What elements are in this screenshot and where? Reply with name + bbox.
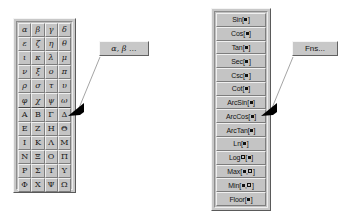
greek-cell-lower-4-2[interactable]: τ xyxy=(45,79,58,93)
fns-leader-line xyxy=(272,57,293,108)
function-button-arctan[interactable]: ArcTan[] xyxy=(216,123,266,137)
function-label: Sec xyxy=(231,58,243,65)
greek-cell-lower-2-2[interactable]: λ xyxy=(45,51,58,65)
greek-cell-upper-3-1[interactable]: Ξ xyxy=(31,150,44,164)
greek-cell-upper-1-0[interactable]: Ε xyxy=(18,122,31,136)
greek-cell-lower-4-3[interactable]: υ xyxy=(58,79,71,93)
greek-cell-lower-2-3[interactable]: μ xyxy=(58,51,71,65)
greek-cell-lower-1-3[interactable]: θ xyxy=(58,37,71,51)
bracket-close: ] xyxy=(249,58,251,65)
greek-cell-lower-1-1[interactable]: ζ xyxy=(31,37,44,51)
function-label: Ln xyxy=(233,140,241,147)
function-button-cos[interactable]: Cos[] xyxy=(216,27,266,41)
greek-cell-lower-3-2[interactable]: ο xyxy=(45,65,58,79)
callout-fns-label: Fns... xyxy=(292,41,338,56)
bracket-close: ] xyxy=(249,30,251,37)
greek-cell-lower-2-0[interactable]: ι xyxy=(18,51,31,65)
placeholder-square-open[interactable] xyxy=(247,183,251,187)
function-button-tan[interactable]: Tan[] xyxy=(216,41,266,55)
greek-cell-lower-5-0[interactable]: φ xyxy=(18,93,31,107)
bracket-close: ] xyxy=(254,127,256,134)
greek-cell-lower-4-0[interactable]: ρ xyxy=(18,79,31,93)
greek-letter-grid: αβγδεζηθικλμνξοπρστυφχψωΑΒΓΔΕΖΗΘΙΚΛΜΝΞΟΠ… xyxy=(18,23,71,188)
greek-cell-upper-0-2[interactable]: Γ xyxy=(45,108,58,122)
greek-cell-lower-5-3[interactable]: ω xyxy=(58,93,71,107)
greek-cell-lower-0-0[interactable]: α xyxy=(18,23,31,37)
function-label: ArcTan xyxy=(227,127,248,134)
greek-cell-upper-2-0[interactable]: Ι xyxy=(18,136,31,150)
bracket-close: ] xyxy=(251,196,253,203)
function-label: Cos xyxy=(231,30,243,37)
function-button-ln[interactable]: Ln[] xyxy=(216,137,266,151)
greek-cell-upper-1-3[interactable]: Θ xyxy=(58,122,71,136)
greek-cell-lower-3-3[interactable]: π xyxy=(58,65,71,79)
greek-cell-lower-5-1[interactable]: χ xyxy=(31,93,44,107)
function-button-log[interactable]: Log[] xyxy=(216,151,266,165)
bracket-close: ] xyxy=(254,113,256,120)
placeholder-square-open[interactable] xyxy=(248,169,252,173)
greek-cell-lower-3-0[interactable]: ν xyxy=(18,65,31,79)
function-label: Cot xyxy=(232,85,243,92)
bracket-close: ] xyxy=(252,182,254,189)
greek-cell-upper-0-3[interactable]: Δ xyxy=(58,108,71,122)
greek-cell-lower-3-1[interactable]: ξ xyxy=(31,65,44,79)
functions-palette[interactable]: Sin[]Cos[]Tan[]Sec[]Csc[]Cot[]ArcSin[]Ar… xyxy=(211,8,271,211)
greek-cell-lower-1-2[interactable]: η xyxy=(45,37,58,51)
greek-leader-line xyxy=(79,57,100,108)
bracket-close: ] xyxy=(248,85,250,92)
function-button-max[interactable]: Max[, ] xyxy=(216,165,266,179)
function-button-sin[interactable]: Sin[] xyxy=(216,13,266,27)
greek-cell-upper-2-2[interactable]: Λ xyxy=(45,136,58,150)
function-button-cot[interactable]: Cot[] xyxy=(216,82,266,96)
greek-cell-upper-0-1[interactable]: Β xyxy=(31,108,44,122)
function-label: ArcSin xyxy=(227,99,247,106)
greek-cell-lower-0-1[interactable]: β xyxy=(31,23,44,37)
greek-cell-upper-5-2[interactable]: Ψ xyxy=(45,178,58,192)
greek-cell-upper-5-0[interactable]: Φ xyxy=(18,178,31,192)
function-button-arccos[interactable]: ArcCos[] xyxy=(216,109,266,123)
greek-cell-upper-4-1[interactable]: Σ xyxy=(31,164,44,178)
bracket-close: ] xyxy=(249,44,251,51)
greek-cell-upper-0-0[interactable]: Α xyxy=(18,108,31,122)
greek-cell-upper-4-3[interactable]: Υ xyxy=(58,164,71,178)
functions-palette-inner-frame: Sin[]Cos[]Tan[]Sec[]Csc[]Cot[]ArcSin[]Ar… xyxy=(214,11,268,208)
greek-cell-upper-5-1[interactable]: Χ xyxy=(31,178,44,192)
greek-cell-lower-0-2[interactable]: γ xyxy=(45,23,58,37)
greek-cell-upper-5-3[interactable]: Ω xyxy=(58,178,71,192)
function-button-sec[interactable]: Sec[] xyxy=(216,54,266,68)
greek-cell-lower-2-1[interactable]: κ xyxy=(31,51,44,65)
functions-list: Sin[]Cos[]Tan[]Sec[]Csc[]Cot[]ArcSin[]Ar… xyxy=(216,13,266,206)
function-label: Sin xyxy=(232,16,242,23)
greek-cell-upper-1-2[interactable]: Η xyxy=(45,122,58,136)
greek-palette-inner-frame: αβγδεζηθικλμνξοπρστυφχψωΑΒΓΔΕΖΗΘΙΚΛΜΝΞΟΠ… xyxy=(16,21,73,190)
bracket-close: ] xyxy=(248,16,250,23)
greek-cell-upper-2-3[interactable]: Μ xyxy=(58,136,71,150)
greek-cell-upper-4-0[interactable]: Ρ xyxy=(18,164,31,178)
function-button-arcsin[interactable]: ArcSin[] xyxy=(216,96,266,110)
bracket-close: ] xyxy=(253,99,255,106)
greek-letter-palette[interactable]: αβγδεζηθικλμνξοπρστυφχψωΑΒΓΔΕΖΗΘΙΚΛΜΝΞΟΠ… xyxy=(13,18,76,193)
greek-cell-upper-1-1[interactable]: Ζ xyxy=(31,122,44,136)
greek-cell-upper-4-2[interactable]: Τ xyxy=(45,164,58,178)
greek-cell-upper-3-3[interactable]: Π xyxy=(58,150,71,164)
bracket-close: ] xyxy=(251,154,253,161)
greek-cell-lower-5-2[interactable]: ψ xyxy=(45,93,58,107)
function-label: Csc xyxy=(231,72,243,79)
function-label: Min xyxy=(228,182,239,189)
greek-cell-lower-4-1[interactable]: σ xyxy=(31,79,44,93)
screenshot-canvas: αβγδεζηθικλμνξοπρστυφχψωΑΒΓΔΕΖΗΘΙΚΛΜΝΞΟΠ… xyxy=(0,0,353,219)
callout-greek-label: α, β ... xyxy=(99,41,149,56)
placeholder-square-open xyxy=(241,155,245,159)
greek-cell-upper-3-2[interactable]: Ο xyxy=(45,150,58,164)
function-button-floor[interactable]: Floor[] xyxy=(216,192,266,206)
function-label: Tan xyxy=(232,44,243,51)
bracket-close: ] xyxy=(249,72,251,79)
greek-cell-upper-3-0[interactable]: Ν xyxy=(18,150,31,164)
function-label: ArcCos xyxy=(226,113,248,120)
greek-cell-upper-2-1[interactable]: Κ xyxy=(31,136,44,150)
function-button-min[interactable]: Min[, ] xyxy=(216,178,266,192)
function-label: Floor xyxy=(229,196,244,203)
greek-cell-lower-0-3[interactable]: δ xyxy=(58,23,71,37)
function-button-csc[interactable]: Csc[] xyxy=(216,68,266,82)
greek-cell-lower-1-0[interactable]: ε xyxy=(18,37,31,51)
